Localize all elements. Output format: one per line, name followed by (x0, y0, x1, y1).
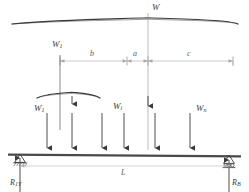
label-reaction-left: R1Y (10, 179, 21, 187)
resultant-load-brace (12, 18, 238, 24)
free-body-diagram: W W1 b a c W1 Wi Wn L R1Y RB (0, 0, 249, 192)
label-span-length: L (121, 169, 125, 177)
label-dimension-c: c (187, 50, 191, 58)
label-dimension-a: a (133, 50, 137, 58)
label-dimension-b: b (90, 50, 94, 58)
label-reaction-right: RB (232, 179, 241, 187)
load-group-brace (37, 92, 100, 98)
label-load-w1: W1 (34, 104, 45, 113)
label-load-w1-upper: W1 (52, 40, 63, 49)
diagram-canvas (0, 0, 249, 192)
label-load-wi: Wi (113, 102, 122, 111)
label-resultant-load: W (152, 3, 160, 12)
beam (8, 155, 241, 157)
label-load-wn: Wn (196, 104, 207, 113)
dimension-line-row (60, 57, 233, 66)
